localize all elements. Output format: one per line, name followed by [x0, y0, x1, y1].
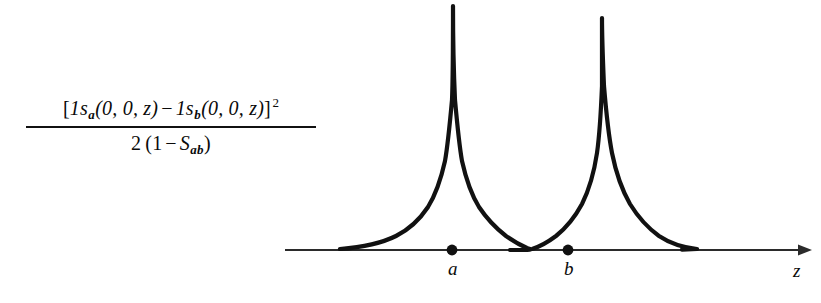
numerator-term1-subscript: a	[88, 107, 95, 122]
density-curve	[340, 6, 697, 250]
numerator-term2-subscript: b	[194, 107, 201, 122]
figure-root: [1sa(0, 0, z)−1sb(0, 0, z)]2 2(1−Sab) a …	[0, 0, 821, 303]
overlap-integral-subscript: ab	[190, 142, 203, 157]
denominator-coefficient: 2	[131, 132, 141, 154]
denominator-close-paren: )	[204, 132, 211, 154]
numerator-term1-args: (0, 0, z)	[95, 97, 158, 119]
numerator-term1-prefix: 1s	[70, 97, 88, 119]
denominator-one: 1	[152, 132, 162, 154]
plot-area	[270, 0, 821, 303]
numerator-term2-args: (0, 0, z)	[201, 97, 264, 119]
z-axis-arrow-icon	[798, 244, 812, 255]
numerator-term2-prefix: 1s	[176, 97, 194, 119]
axis-label-z: z	[793, 260, 800, 282]
axis-point-a	[447, 245, 458, 256]
denominator-operator: −	[165, 132, 176, 154]
numerator-open-bracket: [	[63, 97, 70, 119]
axis-point-b	[563, 245, 574, 256]
numerator-operator: −	[161, 97, 172, 119]
axis-label-b: b	[564, 258, 574, 280]
plot-svg	[270, 0, 821, 303]
axis-label-a: a	[448, 258, 458, 280]
overlap-integral-symbol: S	[180, 132, 190, 154]
